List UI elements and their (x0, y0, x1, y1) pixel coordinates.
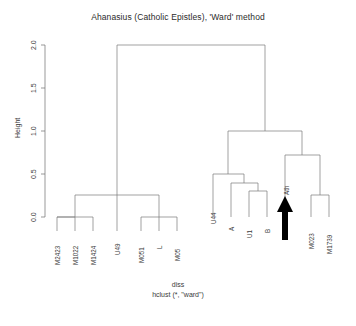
dendrogram-plot (0, 0, 356, 326)
leaf-label-l: L (156, 245, 163, 249)
leaf-label-m2423: M2423 (54, 246, 61, 265)
leaf-label-m1022: M1022 (72, 246, 79, 265)
leaf-label-m1739: M1739 (326, 235, 333, 254)
leaf-label-ath: Ath (283, 186, 290, 195)
leaf-label-u44: U44 (210, 212, 217, 224)
y-axis (41, 45, 45, 217)
x-axis-label-line2: hclust (*, "ward") (0, 291, 356, 298)
leaf-label-m023: M023 (308, 233, 315, 249)
leaf-label-m05: M05 (174, 249, 181, 261)
leaf-label-b: B (264, 229, 271, 233)
leaf-label-u1: U1 (246, 230, 253, 238)
left-cluster-links (57, 195, 177, 231)
leaf-label-m1424: M1424 (90, 246, 97, 265)
right-cluster-links (213, 131, 329, 217)
leaf-label-m051: M051 (138, 247, 145, 263)
leaf-label-a: A (228, 227, 235, 231)
x-axis-label-line1: diss (0, 281, 356, 288)
leaf-label-u49: U49 (114, 243, 121, 255)
annotation-arrow-icon (277, 196, 293, 240)
root-link (117, 45, 265, 195)
